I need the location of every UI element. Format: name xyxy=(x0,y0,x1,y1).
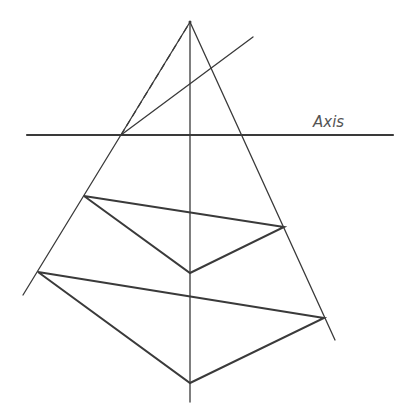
perspective-diagram: Axis xyxy=(0,0,410,420)
apex-point xyxy=(189,21,192,24)
right-side-line xyxy=(190,22,335,340)
upper-triangle xyxy=(84,196,284,273)
lower-triangle xyxy=(38,272,324,383)
oblique-line xyxy=(121,37,253,135)
axis-label: Axis xyxy=(312,113,344,131)
